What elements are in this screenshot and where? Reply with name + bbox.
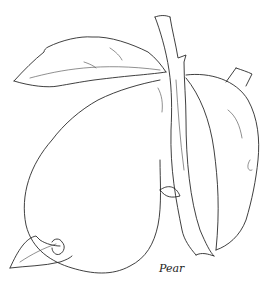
small-leaf xyxy=(160,187,180,197)
pear-illustration xyxy=(0,0,274,288)
coloring-page: Pear xyxy=(0,0,274,288)
right-leaf xyxy=(186,68,259,250)
pear-body xyxy=(24,80,162,273)
caption: Pear xyxy=(159,262,184,275)
lower-leaf xyxy=(10,236,72,268)
upper-leaf xyxy=(14,37,166,87)
stem xyxy=(155,16,214,257)
